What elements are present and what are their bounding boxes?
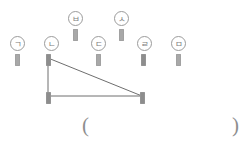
peg-triangle-bottom-right (140, 92, 145, 104)
peg-label-nieun: ㄴ (44, 36, 59, 51)
peg-giyeok (15, 54, 20, 66)
peg-siot (119, 29, 124, 41)
peg-label-mieum: ㅁ (171, 36, 186, 51)
triangle-outline (48, 58, 142, 96)
peg-nieun (46, 54, 51, 66)
answer-close-paren: ) (232, 115, 239, 136)
peg-label-digeut: ㄷ (91, 36, 106, 51)
peg-digeut (96, 54, 101, 66)
geoboard-figure: ㅂ ㅅ ㄱ ㄴ ㄷ ㄹ ㅁ ( ) (0, 0, 249, 151)
peg-label-rieul: ㄹ (137, 36, 152, 51)
peg-label-giyeok: ㄱ (10, 36, 25, 51)
peg-label-siot: ㅅ (114, 11, 129, 26)
peg-triangle-bottom-left (46, 92, 51, 104)
peg-bieup (73, 29, 78, 41)
answer-open-paren: ( (82, 115, 89, 136)
peg-mieum (176, 54, 181, 66)
peg-rieul (141, 54, 146, 66)
peg-label-bieup: ㅂ (68, 11, 83, 26)
